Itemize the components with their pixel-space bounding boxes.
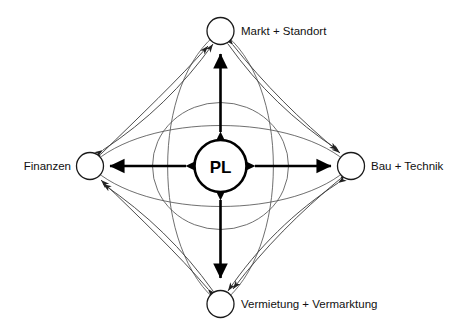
center-node-pl[interactable]: PL xyxy=(195,140,247,192)
node-label-vermietung-vermarktung: Vermietung + Vermarktung xyxy=(241,298,377,310)
node-label-bau-technik: Bau + Technik xyxy=(371,160,444,172)
node-bau-technik[interactable]: Bau + Technik xyxy=(338,153,444,180)
relationship-diagram: PL Markt + Standort Finanzen Bau + Techn… xyxy=(0,0,461,334)
node-circle-vermietung-vermarktung[interactable] xyxy=(207,291,234,318)
node-circle-bau-technik[interactable] xyxy=(338,153,365,180)
node-markt-standort[interactable]: Markt + Standort xyxy=(207,18,327,45)
node-finanzen[interactable]: Finanzen xyxy=(24,153,104,180)
node-vermietung-vermarktung[interactable]: Vermietung + Vermarktung xyxy=(207,291,377,318)
node-circle-finanzen[interactable] xyxy=(77,153,104,180)
arrow-markt-bau-b xyxy=(228,44,338,150)
node-circle-markt-standort[interactable] xyxy=(207,18,234,45)
arrow-markt-bau-a xyxy=(233,45,340,153)
arrow-bau-vermietung-a xyxy=(233,179,340,289)
arrow-finanzen-markt-a xyxy=(101,46,208,154)
node-label-finanzen: Finanzen xyxy=(24,160,71,172)
center-node-label: PL xyxy=(210,158,232,177)
arrow-vermietung-finanzen-b xyxy=(103,184,213,291)
arrow-vermietung-finanzen-a xyxy=(101,180,208,289)
diagram-canvas: PL Markt + Standort Finanzen Bau + Techn… xyxy=(0,0,461,334)
node-label-markt-standort: Markt + Standort xyxy=(241,25,327,37)
arrow-finanzen-markt-b xyxy=(103,44,213,150)
